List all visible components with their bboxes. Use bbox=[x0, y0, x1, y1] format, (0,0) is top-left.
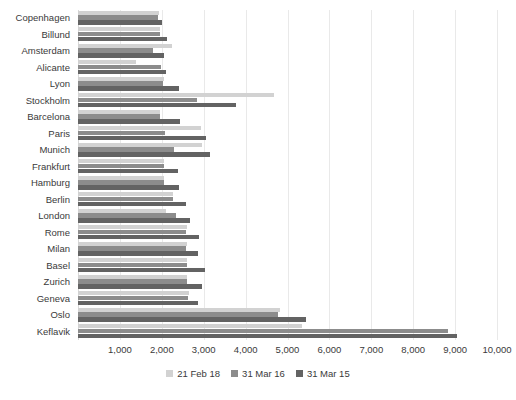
bar bbox=[78, 119, 180, 123]
bar-group bbox=[78, 27, 497, 44]
x-axis-tick-label: 5,000 bbox=[276, 344, 300, 355]
bar bbox=[78, 110, 160, 114]
x-axis-tick-label: 8,000 bbox=[401, 344, 425, 355]
y-axis-label: London bbox=[0, 211, 70, 221]
legend-label: 31 Mar 15 bbox=[307, 368, 350, 379]
y-axis-label: Basel bbox=[0, 261, 70, 271]
legend-item[interactable]: 21 Feb 18 bbox=[166, 368, 220, 379]
bar-group bbox=[78, 175, 497, 192]
bar bbox=[78, 213, 176, 217]
legend-swatch-icon bbox=[231, 370, 238, 377]
y-axis-label: Hamburg bbox=[0, 178, 70, 188]
bar-group bbox=[78, 307, 497, 324]
y-axis-label: Amsterdam bbox=[0, 46, 70, 56]
bar bbox=[78, 242, 187, 246]
bar-group bbox=[78, 274, 497, 291]
x-axis-tick-label: 3,000 bbox=[192, 344, 216, 355]
y-axis-label: Zurich bbox=[0, 277, 70, 287]
bar bbox=[78, 131, 165, 135]
bar-group bbox=[78, 93, 497, 110]
bar bbox=[78, 202, 186, 206]
legend-label: 21 Feb 18 bbox=[177, 368, 220, 379]
bar bbox=[78, 251, 198, 255]
bar bbox=[78, 258, 187, 262]
bar bbox=[78, 197, 173, 201]
x-axis-tick-label: 10,000 bbox=[482, 344, 511, 355]
y-axis-label: Alicante bbox=[0, 63, 70, 73]
bar bbox=[78, 15, 158, 19]
bar bbox=[78, 81, 163, 85]
bar bbox=[78, 60, 136, 64]
bar-group bbox=[78, 109, 497, 126]
bar bbox=[78, 126, 201, 130]
legend-swatch-icon bbox=[296, 370, 303, 377]
bar bbox=[78, 159, 164, 163]
gridline-10000 bbox=[497, 10, 498, 340]
bar bbox=[78, 296, 188, 300]
bar bbox=[78, 225, 187, 229]
bar bbox=[78, 235, 199, 239]
bar bbox=[78, 268, 205, 272]
bar bbox=[78, 329, 448, 333]
bar bbox=[78, 27, 160, 31]
bar-group bbox=[78, 225, 497, 242]
bar bbox=[78, 279, 187, 283]
y-axis-label: Lyon bbox=[0, 79, 70, 89]
bar-group bbox=[78, 43, 497, 60]
bar-group bbox=[78, 76, 497, 93]
x-axis-tick-label: 2,000 bbox=[150, 344, 174, 355]
plot-area bbox=[78, 10, 497, 340]
bar bbox=[78, 37, 167, 41]
bar bbox=[78, 185, 179, 189]
bar bbox=[78, 44, 172, 48]
legend-label: 31 Mar 16 bbox=[242, 368, 285, 379]
bar bbox=[78, 308, 280, 312]
y-axis-category-labels: CopenhagenBillundAmsterdamAlicanteLyonSt… bbox=[0, 10, 74, 340]
bar bbox=[78, 103, 236, 107]
x-axis-tick-label: 7,000 bbox=[359, 344, 383, 355]
chart-legend: 21 Feb 1831 Mar 1631 Mar 15 bbox=[0, 368, 516, 379]
bar bbox=[78, 136, 206, 140]
legend-item[interactable]: 31 Mar 15 bbox=[296, 368, 350, 379]
bar bbox=[78, 230, 186, 234]
x-axis-tick-label: 4,000 bbox=[234, 344, 258, 355]
bar-group bbox=[78, 10, 497, 27]
y-axis-label: Stockholm bbox=[0, 96, 70, 106]
bar bbox=[78, 152, 210, 156]
y-axis-label: Paris bbox=[0, 129, 70, 139]
x-axis-tick-labels: 1,0002,0003,0004,0005,0006,0007,0008,000… bbox=[0, 344, 516, 360]
legend-swatch-icon bbox=[166, 370, 173, 377]
bar bbox=[78, 284, 202, 288]
bar bbox=[78, 86, 179, 90]
y-axis-label: Oslo bbox=[0, 310, 70, 320]
bar bbox=[78, 98, 197, 102]
bar-chart: CopenhagenBillundAmsterdamAlicanteLyonSt… bbox=[0, 0, 516, 400]
y-axis-label: Rome bbox=[0, 228, 70, 238]
bar bbox=[78, 317, 306, 321]
bar bbox=[78, 209, 166, 213]
y-axis-label: Berlin bbox=[0, 195, 70, 205]
bar-group bbox=[78, 324, 497, 341]
bar bbox=[78, 275, 187, 279]
bar bbox=[78, 48, 153, 52]
y-axis-label: Keflavik bbox=[0, 327, 70, 337]
bar bbox=[78, 143, 202, 147]
bar bbox=[78, 32, 160, 36]
bar-group bbox=[78, 208, 497, 225]
bar bbox=[78, 65, 161, 69]
bar-group bbox=[78, 192, 497, 209]
bar bbox=[78, 77, 164, 81]
bar-group bbox=[78, 126, 497, 143]
bar bbox=[78, 218, 190, 222]
bar bbox=[78, 334, 457, 338]
bar bbox=[78, 169, 178, 173]
bar bbox=[78, 176, 164, 180]
bar bbox=[78, 53, 164, 57]
bar bbox=[78, 93, 274, 97]
legend-item[interactable]: 31 Mar 16 bbox=[231, 368, 285, 379]
x-axis-tick-label: 9,000 bbox=[443, 344, 467, 355]
bar bbox=[78, 192, 173, 196]
y-axis-label: Copenhagen bbox=[0, 13, 70, 23]
bar bbox=[78, 324, 302, 328]
y-axis-label: Munich bbox=[0, 145, 70, 155]
